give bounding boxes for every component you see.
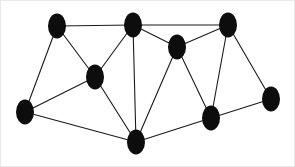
far-right-node[interactable] [262, 87, 280, 112]
graph-diagram [0, 0, 295, 167]
upper-right-inner-node[interactable] [168, 35, 186, 60]
graph-edge-n1-n2 [57, 25, 133, 26]
graph-edge-n2-n7 [133, 25, 136, 142]
lower-right-node[interactable] [202, 106, 220, 131]
graph-edge-n4-n8 [177, 47, 211, 118]
top-middle-node[interactable] [124, 13, 142, 38]
middle-left-node[interactable] [86, 65, 104, 90]
graph-edge-n8-n9 [211, 99, 271, 118]
edge-layer [25, 25, 271, 142]
graph-canvas [1, 1, 295, 167]
graph-edge-n4-n7 [136, 47, 177, 142]
top-left-node[interactable] [48, 14, 66, 39]
far-left-node[interactable] [16, 100, 34, 125]
node-layer [16, 13, 280, 155]
top-right-node[interactable] [219, 13, 237, 38]
graph-edge-n7-n8 [136, 118, 211, 142]
graph-edge-n3-n8 [211, 25, 228, 118]
graph-edge-n1-n6 [25, 26, 57, 112]
graph-edge-n3-n9 [228, 25, 271, 99]
bottom-middle-node[interactable] [127, 130, 145, 155]
